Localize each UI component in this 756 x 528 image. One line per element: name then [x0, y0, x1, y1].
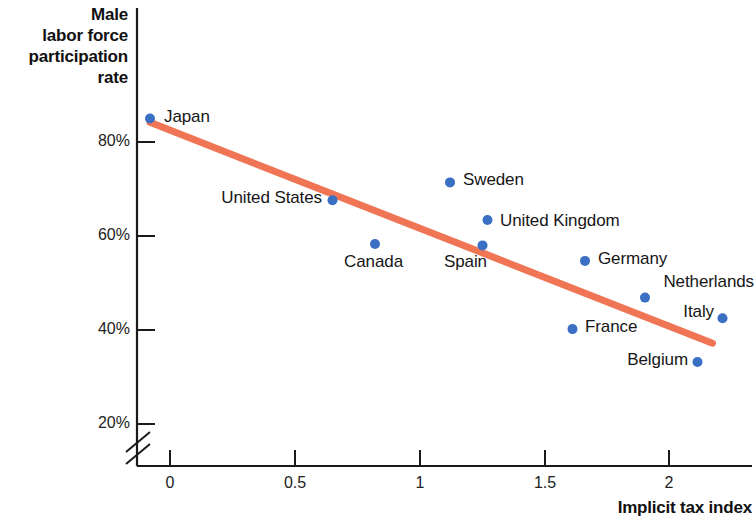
data-point-italy	[718, 313, 728, 323]
data-point-united-states	[328, 195, 338, 205]
data-point-japan	[145, 114, 155, 124]
scatter-chart: Male labor force participation rate Impl…	[0, 0, 756, 528]
x-axis-ticks	[170, 450, 669, 466]
data-point-spain	[478, 240, 488, 250]
data-point-france	[568, 324, 578, 334]
data-point-sweden	[445, 177, 455, 187]
trendline	[150, 122, 713, 343]
data-point-netherlands	[640, 293, 650, 303]
data-point-canada	[370, 239, 380, 249]
y-axis-ticks	[137, 142, 155, 424]
data-point-united-kingdom	[483, 215, 493, 225]
data-point-germany	[580, 256, 590, 266]
plot-area	[0, 0, 756, 528]
data-point-belgium	[693, 357, 703, 367]
